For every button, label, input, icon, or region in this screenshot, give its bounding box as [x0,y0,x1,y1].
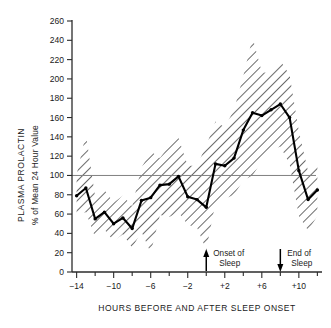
data-point [279,102,282,105]
chart-canvas: 020406080100120140160180200220240260 −14… [0,0,331,328]
y-tick-label: 140 [50,132,64,142]
y-axis-title-line1: PLASMA PROLACTIN [16,128,26,222]
data-point [75,194,78,197]
data-point [158,183,161,186]
data-point [121,216,124,219]
data-point [223,164,226,167]
data-point [251,111,254,114]
y-tick-label: 160 [50,113,64,123]
data-point [130,227,133,230]
x-tick-label: −2 [183,281,193,291]
data-point [288,116,291,119]
data-point [297,169,300,172]
data-point [186,195,189,198]
data-point [112,222,115,225]
y-tick-label: 80 [55,190,65,200]
data-point [168,182,171,185]
x-tick-label: −6 [146,281,156,291]
x-tick-label: −14 [69,281,84,291]
x-tick-label: +6 [257,281,267,291]
sleep-end-label-line1: End of [287,249,311,258]
data-point [177,175,180,178]
y-tick-label: 220 [50,55,64,65]
data-point [140,199,143,202]
y-tick-label: 60 [55,209,65,219]
data-point [84,186,87,189]
y-tick-label: 100 [50,170,64,180]
y-tick-label: 0 [59,267,64,277]
data-point [269,108,272,111]
data-point [242,128,245,131]
data-point [103,210,106,213]
y-tick-label: 240 [50,35,64,45]
sleep-onset-label-line1: Onset of [213,249,245,258]
data-point [232,156,235,159]
data-point [260,114,263,117]
data-point [93,217,96,220]
x-tick-label: +10 [292,281,307,291]
y-axis-title-line2: % of Mean 24 Hour Value [30,125,40,225]
data-point [149,196,152,199]
y-tick-label: 180 [50,93,64,103]
x-axis-title: HOURS BEFORE AND AFTER SLEEP ONSET [98,303,296,313]
y-tick-label: 260 [50,16,64,26]
y-tick-label: 120 [50,151,64,161]
data-point [205,206,208,209]
data-point [316,188,319,191]
y-tick-label: 40 [55,228,65,238]
data-point [195,198,198,201]
sleep-end-label-line2: Sleep [291,259,312,268]
x-tick-label: +2 [220,281,230,291]
data-point [306,198,309,201]
sleep-onset-label-line2: Sleep [219,259,240,268]
prolactin-sleep-chart: 020406080100120140160180200220240260 −14… [0,0,331,328]
y-tick-label: 20 [55,248,65,258]
data-point [214,162,217,165]
y-tick-label: 200 [50,74,64,84]
x-tick-label: −10 [106,281,121,291]
